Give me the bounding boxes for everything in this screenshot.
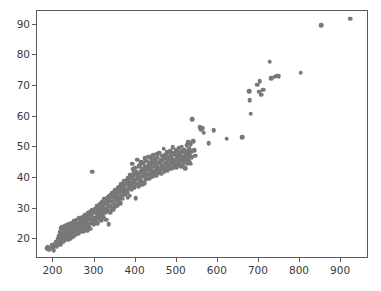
y-tick-label: 30 <box>17 202 30 214</box>
x-tick-label: 500 <box>166 264 186 276</box>
caption-fragment <box>0 283 381 291</box>
data-point <box>248 98 253 103</box>
y-tick-label: 50 <box>17 140 30 152</box>
y-axis: 2030405060708090 <box>0 10 36 258</box>
y-tick-label: 90 <box>17 18 30 30</box>
data-point <box>106 222 111 227</box>
x-tick-mark <box>340 258 341 262</box>
data-point <box>202 130 207 135</box>
y-tick-label: 60 <box>17 110 30 122</box>
data-point <box>183 166 188 171</box>
x-tick-mark <box>135 258 136 262</box>
x-tick-label: 800 <box>289 264 309 276</box>
x-axis: 200300400500600700800900 <box>36 258 368 282</box>
data-point <box>319 23 324 28</box>
y-tick-label: 20 <box>17 232 30 244</box>
data-point <box>247 89 252 94</box>
y-tick-mark <box>32 177 36 178</box>
data-point <box>121 196 126 201</box>
data-point <box>90 170 95 175</box>
x-tick-mark <box>217 258 218 262</box>
y-tick-mark <box>32 85 36 86</box>
x-tick-mark <box>176 258 177 262</box>
data-point <box>133 196 138 201</box>
y-tick-mark <box>32 24 36 25</box>
data-point <box>225 136 230 141</box>
data-point <box>211 128 216 133</box>
y-tick-label: 70 <box>17 79 30 91</box>
x-tick-label: 200 <box>42 264 62 276</box>
data-point <box>188 162 193 167</box>
data-point <box>257 79 262 84</box>
data-point <box>88 227 93 232</box>
x-tick-label: 600 <box>207 264 227 276</box>
data-point <box>193 154 198 159</box>
plot-area <box>36 10 368 258</box>
x-tick-label: 400 <box>125 264 145 276</box>
data-point <box>191 139 196 144</box>
y-tick-mark <box>32 146 36 147</box>
data-point <box>190 117 195 122</box>
data-point <box>192 148 197 153</box>
data-point <box>276 74 281 79</box>
x-tick-label: 900 <box>330 264 350 276</box>
data-point <box>259 92 264 97</box>
data-point <box>206 141 211 146</box>
x-tick-mark <box>94 258 95 262</box>
y-tick-mark <box>32 238 36 239</box>
y-tick-mark <box>32 54 36 55</box>
data-point <box>119 201 124 206</box>
data-point <box>267 59 272 64</box>
x-tick-mark <box>299 258 300 262</box>
y-tick-label: 40 <box>17 171 30 183</box>
y-tick-label: 80 <box>17 48 30 60</box>
x-tick-mark <box>258 258 259 262</box>
x-tick-label: 700 <box>248 264 268 276</box>
data-point <box>240 135 245 140</box>
x-tick-label: 300 <box>84 264 104 276</box>
y-tick-mark <box>32 116 36 117</box>
data-point <box>348 16 353 21</box>
scatter-plot-figure: 200300400500600700800900 203040506070809… <box>0 0 381 291</box>
data-point <box>299 70 304 75</box>
x-tick-mark <box>52 258 53 262</box>
data-point <box>261 87 266 92</box>
data-point <box>128 193 133 198</box>
data-point <box>248 111 253 116</box>
y-tick-mark <box>32 208 36 209</box>
